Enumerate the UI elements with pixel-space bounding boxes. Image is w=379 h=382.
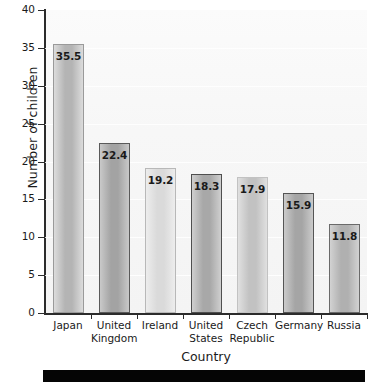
bar[interactable]: 35.5	[53, 44, 84, 313]
x-axis-category-label: CzechRepublic	[229, 319, 275, 344]
bar-value-label: 22.4	[100, 149, 129, 161]
x-axis-category-label-line: Germany	[275, 319, 321, 332]
bar-chart-figure: Number of children 0510152025303540 35.5…	[0, 0, 379, 382]
x-axis-category-label-line: States	[183, 332, 229, 345]
y-axis-tick-label: 20	[0, 155, 35, 167]
y-axis-tick-label: 35	[0, 41, 35, 53]
bar-value-label: 15.9	[284, 199, 313, 211]
y-axis-tick-label: 0	[0, 306, 35, 318]
x-axis-category-label: Germany	[275, 319, 321, 332]
y-axis-tick-label: 5	[0, 268, 35, 280]
gridline	[45, 124, 367, 125]
y-axis-tick	[38, 124, 45, 125]
y-axis-tick-label: 10	[0, 230, 35, 242]
bar[interactable]: 15.9	[283, 193, 314, 313]
x-axis-category-label-line: Ireland	[137, 319, 183, 332]
y-axis-tick	[38, 199, 45, 200]
bar[interactable]: 22.4	[99, 143, 130, 313]
y-axis-tick	[38, 275, 45, 276]
x-axis-category-label-line: Kingdom	[91, 332, 137, 345]
x-axis-category-label: UnitedKingdom	[91, 319, 137, 344]
y-axis-tick-label: 40	[0, 3, 35, 15]
x-axis-category-label: Japan	[45, 319, 91, 332]
y-axis-tick	[38, 48, 45, 49]
x-axis-category-label-line: Russia	[321, 319, 367, 332]
x-axis-category-label-line: Republic	[229, 332, 275, 345]
bar[interactable]: 18.3	[191, 174, 222, 313]
bar-value-label: 17.9	[238, 183, 267, 195]
bar-value-label: 11.8	[330, 230, 359, 242]
y-axis-tick	[38, 10, 45, 11]
y-axis-tick-label: 30	[0, 79, 35, 91]
bar[interactable]: 11.8	[329, 224, 360, 313]
y-axis-tick	[38, 237, 45, 238]
x-axis-tick	[367, 313, 368, 319]
y-axis-tick	[38, 313, 45, 314]
x-axis-category-label-line: United	[91, 319, 137, 332]
bar-value-label: 35.5	[54, 50, 83, 62]
gridline	[45, 86, 367, 87]
bar[interactable]: 17.9	[237, 177, 268, 313]
y-axis-tick	[38, 162, 45, 163]
bar-value-label: 19.2	[146, 174, 175, 186]
x-axis-category-label-line: United	[183, 319, 229, 332]
y-axis-tick-label: 15	[0, 192, 35, 204]
x-axis-line	[44, 313, 367, 315]
x-axis-category-label: Russia	[321, 319, 367, 332]
x-axis-title: Country	[45, 349, 367, 364]
y-axis-tick	[38, 86, 45, 87]
x-axis-category-label: UnitedStates	[183, 319, 229, 344]
gridline	[45, 48, 367, 49]
gridline	[45, 162, 367, 163]
bar[interactable]: 19.2	[145, 168, 176, 313]
y-axis-tick-label: 25	[0, 117, 35, 129]
x-axis-category-label-line: Czech	[229, 319, 275, 332]
x-axis-category-label-line: Japan	[45, 319, 91, 332]
bar-value-label: 18.3	[192, 180, 221, 192]
x-axis-category-label: Ireland	[137, 319, 183, 332]
footer-black-bar	[43, 370, 365, 382]
